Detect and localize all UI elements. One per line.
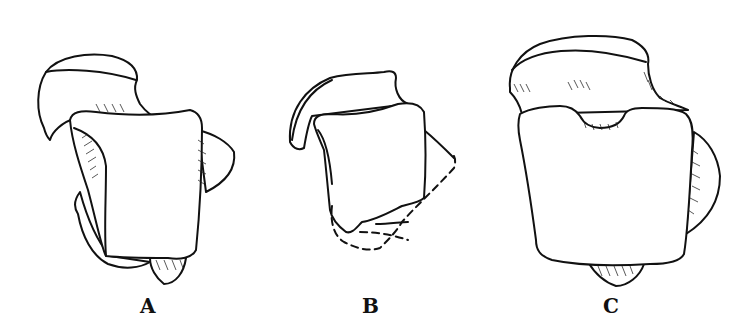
panel-label-b: B [362, 294, 379, 318]
panel-label-a: A [140, 294, 156, 318]
panel-a-drawing [38, 55, 234, 284]
panel-label-c: C [603, 294, 619, 318]
panel-b-drawing [290, 71, 455, 249]
figure-canvas: A B C [0, 0, 746, 331]
panel-c-drawing [510, 36, 720, 286]
line-drawing [0, 0, 746, 331]
